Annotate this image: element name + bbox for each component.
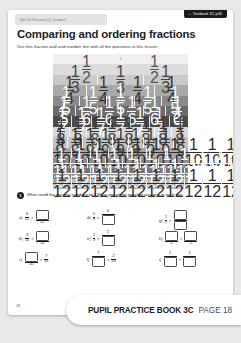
question-item: i)2<2 [159,252,196,267]
comparison-operator: < [97,215,99,220]
fraction: 10 [25,252,38,267]
fraction: 7 [92,252,105,267]
question-item: d)58<6 [87,210,115,225]
textbook-reference-tab[interactable]: →Textbook 3C p34 [184,10,227,18]
item-label: c) [19,257,22,262]
item-label: b) [19,236,22,241]
comparison-operator: > [180,236,182,241]
question-item: b)310>10 [19,231,49,246]
item-label: a) [19,215,22,220]
fraction-wall-cell: 12 [53,64,121,74]
unit-tab-label: Unit 10: Fractions (2), Lesson 5 [15,14,107,22]
item-label: g) [159,218,162,223]
fraction: 2 [102,231,115,246]
page-subtitle: Use this fraction wall and number line w… [17,44,158,49]
fraction: 12 [36,210,49,225]
number-line-tick-start [55,171,56,178]
fraction: 2 [184,231,197,246]
fraction: 710 [44,255,48,264]
fraction: 2 [164,252,177,267]
answer-box[interactable] [165,231,178,241]
item-label: e) [87,236,90,241]
answer-box[interactable] [174,221,187,231]
number-line-start-label: 0 [54,179,56,183]
item-label: f) [87,257,89,262]
page-title: Comparing and ordering fractions [17,28,195,40]
question-item: e)23>2 [87,231,115,246]
comparison-operator: < [40,257,42,262]
comparison-operator: > [107,257,109,262]
comparison-operator: > [97,236,99,241]
fraction: 12 [165,216,167,225]
fraction [174,210,187,230]
answer-box[interactable] [92,257,105,267]
footer-book-title: PUPIL PRACTICE BOOK 3C [88,306,193,315]
fraction-wall-cell: 12 [121,64,188,74]
fraction: 23 [93,234,95,243]
fraction: 210 [111,255,115,264]
answer-box[interactable] [36,210,49,220]
unit-tab: Unit 10: Fractions (2), Lesson 5 [15,14,107,25]
item-label: h) [159,236,162,241]
fraction-wall-cell: 112 [203,179,222,189]
number-line-bar [55,174,186,175]
fraction-wall-cell: 112 [222,179,233,189]
arrow-right-icon: → [188,12,192,16]
item-label: i) [159,257,161,262]
number-line: 0 1 [53,170,188,186]
fraction: 2 [165,231,178,246]
number-line-tick-end [185,171,186,178]
fraction: 612 [25,213,29,222]
fraction: 10 [36,231,49,246]
answer-box[interactable] [184,231,197,241]
page-number: 18 [16,304,20,308]
comparison-operator: < [169,218,171,223]
answer-box[interactable] [174,210,187,220]
question-number-badge: 1 [17,192,24,199]
textbook-tab-label: Textbook 3C p34 [193,12,222,16]
question-item: f)7>210 [87,252,116,267]
answer-box[interactable] [25,252,38,262]
answer-box[interactable] [102,215,115,225]
question-item: a)612<12 [19,210,49,225]
fraction: 58 [93,213,95,222]
comparison-operator: < [179,257,181,262]
answer-box[interactable] [164,257,177,267]
question-text: What could the missing numbers be? Write… [27,192,184,199]
fraction: 6 [102,210,115,225]
fraction: 310 [25,234,29,243]
question-item: h)2>2 [159,231,197,246]
fraction: 2 [183,252,196,267]
footer-banner: PUPIL PRACTICE BOOK 3C PAGE 18 [66,295,241,325]
comparison-operator: > [31,236,33,241]
question-items: a)612<12b)310>10c)10<710d)58<6e)23>2f)7>… [19,210,227,295]
comparison-operator: < [31,215,33,220]
answer-box[interactable] [102,236,115,246]
number-line-end-label: 1 [185,179,187,183]
practice-book-page: Unit 10: Fractions (2), Lesson 5 →Textbo… [8,10,233,315]
answer-box[interactable] [183,257,196,267]
question-item: g)12< [159,210,187,230]
footer-page-label: PAGE 18 [198,306,232,315]
fraction-wall: 1121213131314141414151515151516161616161… [53,54,188,189]
question-item: c)10<710 [19,252,48,267]
question-header: 1 What could the missing numbers be? Wri… [17,192,223,199]
answer-box[interactable] [36,231,49,241]
item-label: d) [87,215,90,220]
